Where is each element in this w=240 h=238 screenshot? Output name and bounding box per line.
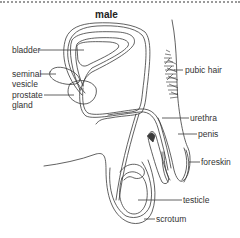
diagram-title: male	[95, 9, 118, 20]
label-prostate-gland-line2: gland	[12, 100, 33, 110]
label-pubic-hair: pubic hair	[185, 65, 222, 75]
vas-deferens-1	[116, 114, 136, 200]
diagram-frame: male bladder seminal vesicle prostate gl…	[0, 0, 240, 238]
label-urethra: urethra	[190, 113, 217, 123]
label-scrotum: scrotum	[156, 214, 186, 224]
label-foreskin: foreskin	[201, 157, 231, 167]
label-testicle: testicle	[183, 195, 209, 205]
label-seminal-vesicle-line1: seminal	[12, 69, 41, 79]
label-seminal-vesicle-line2: vesicle	[12, 79, 38, 89]
label-penis: penis	[198, 129, 218, 139]
label-bladder: bladder	[12, 45, 40, 55]
foreskin-1	[182, 148, 187, 180]
label-prostate-gland-line1: prostate	[12, 90, 43, 100]
scrotum-inner	[110, 162, 152, 218]
vas-deferens-2	[119, 114, 139, 200]
bladder-lumen	[77, 42, 119, 66]
bladder-wall-outer	[70, 32, 134, 90]
bladder-wall-inner	[76, 38, 129, 86]
penis-outer	[158, 20, 190, 181]
